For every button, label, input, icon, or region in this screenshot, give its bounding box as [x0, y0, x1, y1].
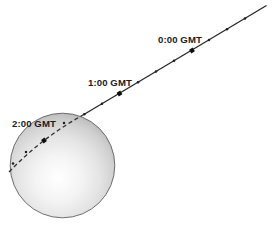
occultation-diagram: 0:00 GMT 1:00 GMT 2:00 GMT	[0, 0, 276, 226]
minute-tick-dot	[12, 162, 15, 165]
minute-tick-dot	[63, 122, 66, 125]
time-label-0100-gmt: 1:00 GMT	[88, 77, 132, 88]
minute-tick-dot	[208, 39, 211, 42]
minute-tick-dot	[137, 81, 140, 84]
minute-tick-dot	[155, 70, 158, 73]
minute-tick-dot	[101, 102, 104, 105]
minute-tick-dot	[25, 151, 28, 154]
minute-tick-dot	[226, 28, 229, 31]
trajectory-line	[84, 6, 266, 115]
diagram-canvas: 0:00 GMT 1:00 GMT 2:00 GMT	[0, 0, 276, 226]
time-label-0000-gmt: 0:00 GMT	[158, 34, 202, 45]
minute-tick-dot	[173, 60, 176, 63]
minute-tick-dot	[244, 17, 247, 20]
minute-tick-dot	[83, 113, 86, 116]
time-label-0200-gmt: 2:00 GMT	[12, 118, 56, 129]
